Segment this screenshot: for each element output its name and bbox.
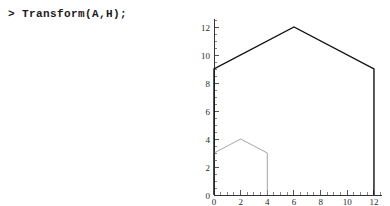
series-polyline-1 <box>214 139 267 195</box>
x-tick-label: 6 <box>292 197 297 206</box>
y-tick-label: 6 <box>206 107 211 117</box>
data-series-group <box>214 27 374 195</box>
y-tick-label: 0 <box>206 191 211 201</box>
x-tick-label: 0 <box>212 197 217 206</box>
y-axis-tick-labels: 024681012 <box>201 23 211 201</box>
y-tick-label: 12 <box>201 23 210 33</box>
x-tick-label: 2 <box>238 197 243 206</box>
y-tick-label: 10 <box>201 51 211 61</box>
y-tick-label: 2 <box>206 163 211 173</box>
x-tick-label: 4 <box>265 197 270 206</box>
plot-figure: 024681012 024681012 <box>196 0 390 206</box>
plot-canvas: 024681012 024681012 <box>196 0 390 206</box>
x-tick-label: 10 <box>343 197 353 206</box>
major-ticks-group <box>214 27 374 195</box>
y-tick-label: 4 <box>206 135 211 145</box>
minor-ticks-group <box>214 20 381 195</box>
command-prompt-line: > Transform(A,H); <box>8 8 127 20</box>
axes-group <box>214 19 382 195</box>
console-output-area: > Transform(A,H); <box>0 0 200 206</box>
x-axis-tick-labels: 024681012 <box>212 197 379 206</box>
y-tick-label: 8 <box>206 79 211 89</box>
x-tick-label: 12 <box>369 197 378 206</box>
x-tick-label: 8 <box>318 197 323 206</box>
series-polyline-2 <box>214 27 374 195</box>
